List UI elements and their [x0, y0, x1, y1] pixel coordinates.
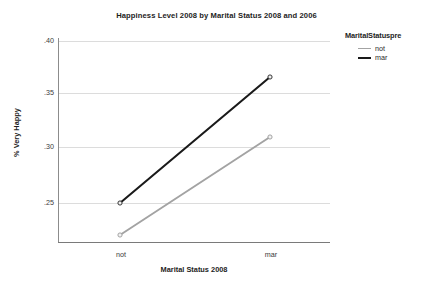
plot-svg: [58, 38, 330, 243]
legend-title: MaritalStatuspre: [345, 31, 433, 40]
x-tick-label: not: [116, 250, 126, 259]
line-chart: Happiness Level 2008 by Marital Status 2…: [0, 0, 433, 286]
legend-swatch-not-icon: [358, 48, 371, 49]
data-point-not-mar: [268, 135, 272, 139]
legend-swatch-mar-icon: [358, 57, 371, 59]
y-axis-title: % Very Happy: [12, 88, 21, 178]
gridlines: [58, 42, 330, 204]
series-mar-line: [120, 77, 270, 203]
x-tick-label: mar: [265, 250, 277, 259]
legend-item-mar[interactable]: mar: [358, 53, 433, 62]
legend-item-not[interactable]: not: [358, 44, 433, 53]
data-point-not-not: [118, 233, 122, 237]
data-point-mar-not: [118, 201, 122, 205]
series-not-line: [120, 137, 270, 235]
legend-label-not: not: [375, 44, 385, 53]
data-point-mar-mar: [268, 75, 272, 79]
x-axis-title: Marital Status 2008: [58, 265, 330, 274]
legend-label-mar: mar: [375, 53, 387, 62]
legend: MaritalStatuspre not mar: [345, 31, 433, 62]
plot-area: [58, 38, 330, 243]
